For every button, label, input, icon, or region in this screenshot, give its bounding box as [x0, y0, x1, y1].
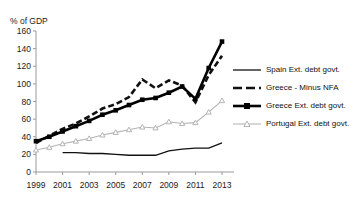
y-axis-tick-label: 60: [7, 115, 31, 124]
series-marker: [47, 134, 52, 139]
series-line: [63, 143, 222, 155]
legend-item[interactable]: Portugal Ext. debt govt.: [232, 116, 360, 132]
series-marker: [140, 124, 145, 129]
legend-item-label: Spain Ext. debt govt.: [266, 66, 340, 74]
series-marker: [74, 124, 79, 129]
x-axis-tick-label: 2013: [205, 181, 239, 190]
light-triangle-key-icon: [232, 119, 262, 129]
dashed-key-icon: [232, 83, 262, 93]
series-marker: [180, 121, 185, 126]
series-marker: [180, 84, 185, 89]
series-marker: [166, 119, 171, 124]
solid-thick-square-key-icon: [232, 101, 262, 111]
series-marker: [87, 119, 92, 124]
series-marker: [140, 97, 145, 102]
series-marker: [219, 98, 224, 103]
y-axis-tick-label: 160: [7, 27, 31, 36]
series-marker: [113, 130, 118, 135]
series-marker: [33, 147, 38, 152]
series-marker: [47, 145, 52, 150]
chart-legend: Spain Ext. debt govt.Greece - Minus NFAG…: [232, 62, 360, 134]
y-axis-tick-label: 40: [7, 133, 31, 142]
series-marker: [73, 139, 78, 144]
series-marker: [220, 39, 225, 44]
legend-item[interactable]: Greece - Minus NFA: [232, 80, 360, 96]
y-axis-tick-label: 20: [7, 150, 31, 159]
legend-item-label: Portugal Ext. debt govt.: [266, 120, 349, 128]
series-marker: [127, 103, 132, 108]
y-axis-tick-label: 120: [7, 62, 31, 71]
series-marker: [193, 97, 198, 102]
series-marker: [113, 108, 118, 113]
series-marker: [126, 127, 131, 132]
y-axis-tick-label: 100: [7, 80, 31, 89]
legend-item-label: Greece Ext. debt govt.: [266, 102, 346, 110]
legend-item[interactable]: Spain Ext. debt govt.: [232, 62, 360, 78]
series-marker: [153, 125, 158, 130]
legend-item[interactable]: Greece Ext. debt govt.: [232, 98, 360, 114]
chart-figure: % of GDP 020406080100120140160 199920012…: [0, 0, 362, 198]
series-marker: [60, 129, 65, 134]
series-marker: [206, 66, 211, 71]
series-marker: [87, 136, 92, 141]
x-axis-tick-labels: 19992001200320052007200920112013: [0, 177, 362, 191]
series-marker: [34, 139, 39, 144]
series-marker: [60, 141, 65, 146]
y-axis-tick-label: 80: [7, 97, 31, 106]
series-marker: [100, 112, 105, 117]
series-marker: [100, 132, 105, 137]
y-axis-tick-label: 140: [7, 44, 31, 53]
legend-item-label: Greece - Minus NFA: [266, 84, 338, 92]
series-marker: [153, 96, 158, 101]
y-axis-tick-labels: 020406080100120140160: [5, 0, 31, 198]
y-axis-tick-label: 0: [7, 168, 31, 177]
series-marker: [167, 90, 172, 95]
solid-thin-key-icon: [232, 65, 262, 75]
